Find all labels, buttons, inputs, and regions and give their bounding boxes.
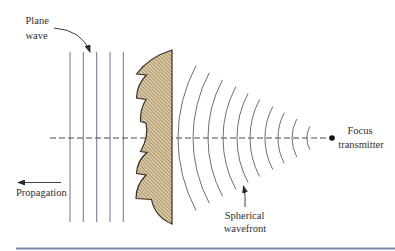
plane-wave-label-line2: wave bbox=[26, 30, 48, 41]
spherical-wavefront-arrow bbox=[244, 186, 246, 207]
zoned-lens bbox=[136, 50, 172, 224]
focus-point bbox=[329, 135, 335, 141]
propagation-label: Propagation bbox=[16, 187, 67, 198]
plane-wave-lines bbox=[70, 52, 123, 222]
spherical-wavefront-label-line1: Spherical bbox=[225, 210, 265, 221]
lens-antenna-diagram: Plane wave Propagation Focus transmitter… bbox=[0, 0, 395, 251]
spherical-wavefront-label-line2: wavefront bbox=[224, 223, 267, 234]
plane-wave-label-line1: Plane bbox=[26, 15, 50, 26]
plane-wave-arrow bbox=[54, 28, 90, 52]
focus-transmitter-label-line2: transmitter bbox=[338, 139, 384, 150]
focus-transmitter-label-line1: Focus bbox=[347, 125, 372, 136]
